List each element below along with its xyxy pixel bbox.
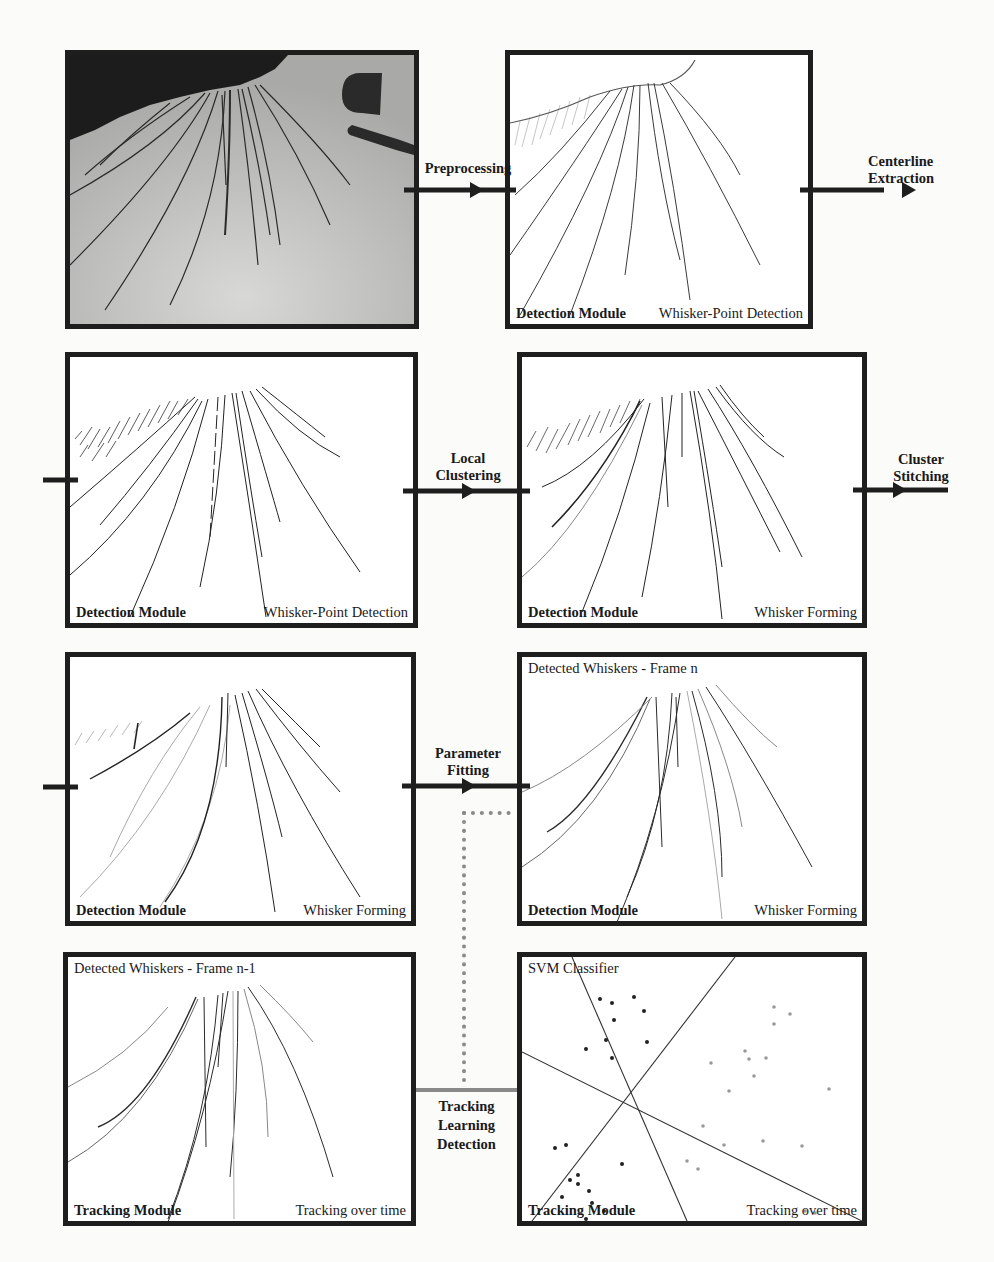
stage-label: Whisker Forming bbox=[754, 604, 857, 621]
panel-frame-n: Detected Whiskers - Frame n Detection Mo… bbox=[517, 652, 867, 926]
local-cluster-image bbox=[522, 357, 862, 623]
module-label: Detection Module bbox=[76, 604, 186, 621]
stage-label: Tracking over time bbox=[746, 1202, 857, 1219]
panel-stitched: Detection Module Whisker Forming bbox=[65, 652, 416, 926]
step-label: Detection bbox=[416, 1135, 517, 1154]
panel-local-clusters: Detection Module Whisker Forming bbox=[517, 352, 867, 628]
panel-title: SVM Classifier bbox=[528, 960, 619, 977]
step-tracking-learning-detection: Tracking Learning Detection bbox=[416, 1097, 517, 1154]
step-label: Parameter bbox=[418, 745, 518, 762]
stage-label: Whisker Forming bbox=[754, 902, 857, 919]
panel-raw-frame bbox=[65, 50, 419, 329]
frame-n-1-whiskers-image bbox=[68, 957, 411, 1221]
panel-title: Detected Whiskers - Frame n-1 bbox=[74, 960, 256, 977]
stage-label: Whisker-Point Detection bbox=[659, 305, 803, 322]
raw-whisker-image bbox=[70, 55, 414, 324]
arrow-head-icon bbox=[470, 182, 484, 198]
module-label: Detection Module bbox=[76, 902, 186, 919]
step-preprocessing: Preprocessing bbox=[420, 160, 516, 177]
stage-label: Tracking over time bbox=[295, 1202, 406, 1219]
frame-n-whiskers-image bbox=[522, 657, 862, 921]
panel-frame-n-1: Detected Whiskers - Frame n-1 Tracking M… bbox=[63, 952, 416, 1226]
panel-centerline: Detection Module Whisker-Point Detection bbox=[65, 352, 418, 628]
stitched-whiskers-image bbox=[70, 657, 411, 921]
stage-label: Whisker-Point Detection bbox=[264, 604, 408, 621]
step-label: Cluster bbox=[866, 451, 976, 468]
step-label: Centerline bbox=[868, 153, 968, 170]
step-label: Tracking bbox=[416, 1097, 517, 1116]
stage-label: Whisker Forming bbox=[303, 902, 406, 919]
step-centerline-extraction: Centerline Extraction bbox=[868, 153, 968, 187]
arrow-head-icon bbox=[462, 778, 476, 794]
module-label: Detection Module bbox=[528, 902, 638, 919]
step-label: Local bbox=[420, 450, 516, 467]
module-label: Detection Module bbox=[516, 305, 626, 322]
module-label: Detection Module bbox=[528, 604, 638, 621]
step-label: Clustering bbox=[420, 467, 516, 484]
centerline-points-image bbox=[70, 357, 413, 623]
step-parameter-fitting: Parameter Fitting bbox=[418, 745, 518, 779]
step-label: Fitting bbox=[418, 762, 518, 779]
step-label: Stitching bbox=[866, 468, 976, 485]
module-label: Tracking Module bbox=[74, 1202, 181, 1219]
panel-title: Detected Whiskers - Frame n bbox=[528, 660, 698, 677]
step-label: Preprocessing bbox=[425, 160, 511, 176]
step-label: Learning bbox=[416, 1116, 517, 1135]
panel-svm: SVM Classifier Tracking Module Tracking … bbox=[517, 952, 867, 1226]
step-local-clustering: Local Clustering bbox=[420, 450, 516, 484]
step-label: Extraction bbox=[868, 170, 968, 187]
step-cluster-stitching: Cluster Stitching bbox=[866, 451, 976, 485]
svm-classifier-plot bbox=[522, 957, 862, 1221]
panel-preprocessed: Detection Module Whisker-Point Detection bbox=[505, 50, 813, 329]
preprocessed-whisker-image bbox=[510, 55, 808, 324]
module-label: Tracking Module bbox=[528, 1202, 635, 1219]
arrow-head-icon bbox=[462, 483, 476, 499]
